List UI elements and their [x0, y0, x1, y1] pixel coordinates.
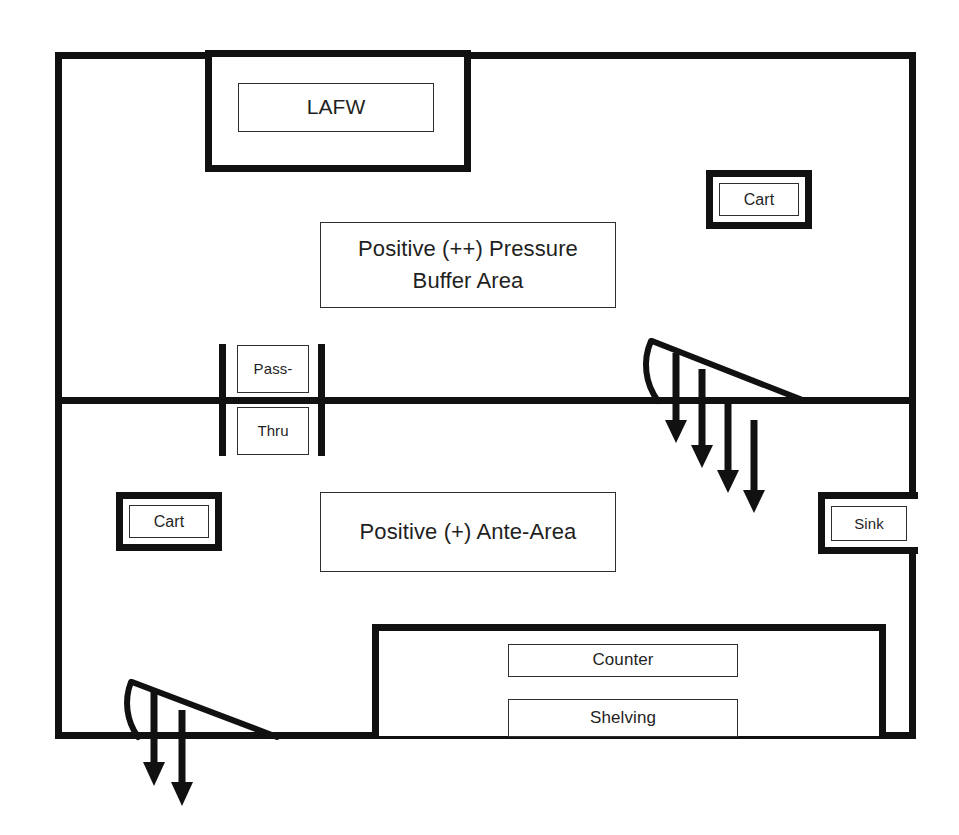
- ante-area-label: Positive (+) Ante-Area: [360, 516, 577, 548]
- counter-label-box[interactable]: Counter: [508, 644, 738, 677]
- lafw-label-box[interactable]: LAFW: [238, 83, 434, 132]
- cart-ante-label: Cart: [154, 510, 185, 533]
- door-ante-to-exterior: [127, 682, 277, 737]
- shelving-label-box[interactable]: Shelving: [508, 699, 738, 737]
- buffer-area-label: Positive (++) Pressure Buffer Area: [358, 233, 578, 297]
- pass-thru-upper-label: Pass-: [254, 358, 293, 380]
- cart-buffer-label-box[interactable]: Cart: [719, 183, 799, 216]
- pass-thru-lower-box[interactable]: Thru: [237, 407, 309, 455]
- shelving-label: Shelving: [590, 706, 656, 731]
- cart-ante-label-box[interactable]: Cart: [129, 505, 209, 538]
- cart-buffer-label: Cart: [744, 188, 775, 211]
- buffer-area-label-box: Positive (++) Pressure Buffer Area: [320, 222, 616, 308]
- sink-label: Sink: [854, 513, 884, 535]
- door-buffer-to-ante: [646, 341, 805, 401]
- airflow-arrows-ante-to-exterior: [143, 692, 193, 806]
- lafw-label: LAFW: [307, 92, 366, 122]
- cleanroom-floor-plan-diagram: LAFW Cart Positive (++) Pressure Buffer …: [0, 0, 959, 835]
- sink-label-box[interactable]: Sink: [831, 506, 907, 541]
- counter-label: Counter: [592, 648, 653, 673]
- ante-area-label-box: Positive (+) Ante-Area: [320, 492, 616, 572]
- pass-thru-lower-label: Thru: [257, 420, 288, 442]
- pass-thru-upper-box[interactable]: Pass-: [237, 345, 309, 393]
